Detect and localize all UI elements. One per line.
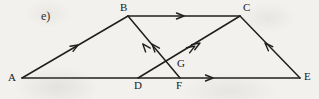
- geometry-figure: e) A B C D E F G: [0, 0, 319, 99]
- part-label: e): [41, 10, 50, 22]
- vertex-label-D: D: [134, 80, 142, 91]
- arrowhead-edge-D-C: [186, 40, 201, 52]
- vertex-label-B: B: [120, 2, 127, 13]
- arrowhead-edge-F-B: [140, 37, 159, 56]
- vertex-label-G: G: [177, 58, 185, 69]
- vertex-label-C: C: [243, 2, 250, 13]
- edge-A-B: [22, 16, 128, 78]
- vertex-label-F: F: [176, 80, 182, 91]
- vertex-label-A: A: [8, 72, 16, 83]
- edge-C-E: [240, 16, 300, 78]
- vertex-label-E: E: [304, 71, 311, 82]
